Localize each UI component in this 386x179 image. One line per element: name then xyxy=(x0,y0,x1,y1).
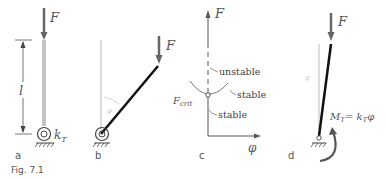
branch-stable-axis: stable xyxy=(218,109,247,120)
length-label: l xyxy=(19,83,23,98)
svg-text:F: F xyxy=(337,14,348,29)
deflected-bar xyxy=(319,44,331,136)
panel-label-d: d xyxy=(288,150,294,161)
panel-label-b: b xyxy=(95,150,101,161)
panel-label-a: a xyxy=(15,150,21,161)
branch-stable-curve: stable xyxy=(237,89,266,100)
svg-text:F: F xyxy=(165,38,176,53)
panel-c: F φ Fcrit unstable stable stable c xyxy=(172,6,266,161)
moment-equation: MT= kTφ xyxy=(329,111,374,124)
critical-load-label: Fcrit xyxy=(172,95,192,108)
svg-text:F: F xyxy=(214,6,225,21)
spring-stiffness-label: kT xyxy=(54,128,67,144)
panel-d: F φ MT= kTφ d xyxy=(288,13,374,161)
svg-text:φ: φ xyxy=(107,107,112,115)
panel-label-c: c xyxy=(199,150,205,161)
force-label: F xyxy=(49,10,60,25)
figure-canvas: F l kT a Fig. 7.1 F φ xyxy=(0,0,386,179)
svg-text:φ: φ xyxy=(248,141,257,155)
svg-text:φ: φ xyxy=(305,74,310,82)
torsion-spring-icon xyxy=(38,128,51,141)
deflected-bar xyxy=(101,66,158,134)
figure-caption: Fig. 7.1 xyxy=(11,165,44,175)
branch-unstable: unstable xyxy=(219,66,261,77)
panel-b: F φ b xyxy=(93,36,176,161)
panel-a: F l kT a xyxy=(15,8,67,161)
moment-arrow-icon xyxy=(320,131,336,161)
